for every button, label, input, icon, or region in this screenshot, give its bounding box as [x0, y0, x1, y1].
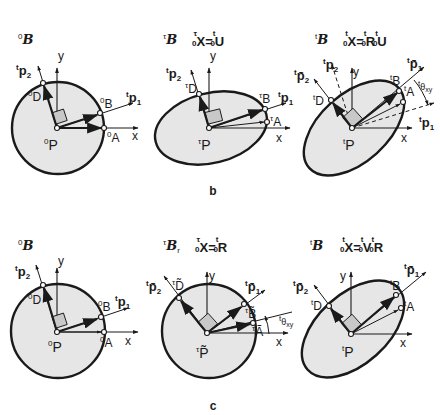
point-A: [265, 120, 270, 125]
point-P: [350, 126, 355, 131]
config-symbol: 0B: [18, 32, 33, 47]
panel-b1: 0B y x 0P 0A 0B 0D tp1 tp2: [12, 32, 142, 174]
point-D: [41, 283, 46, 288]
label-D: tD: [311, 298, 322, 313]
label-p1bar: tp̄1: [404, 262, 420, 279]
x-label: x: [400, 336, 406, 350]
point-A: [102, 330, 107, 335]
polar-decomposition-figure: 0B y x 0P 0A 0B 0D tp1 tp2 τB τ0X=t0U: [0, 0, 440, 415]
label-D: tD: [313, 93, 324, 108]
point-P: [207, 126, 212, 131]
label-A: tA: [404, 299, 414, 314]
x-label: x: [125, 334, 131, 348]
label-B: 0B: [100, 96, 112, 111]
point-B: [98, 111, 103, 116]
point-D: [41, 81, 46, 86]
y-label: y: [58, 49, 64, 63]
label-D: τD̃: [172, 278, 184, 293]
point-P: [349, 332, 354, 337]
label-theta-xy: tθxy: [418, 79, 433, 94]
subfigure-label-b: b: [209, 184, 216, 198]
y-label: y: [340, 269, 346, 283]
x-label: x: [401, 131, 407, 145]
panel-b3: tB t0X=t0Rt0U y x tP tA tB tD tθxy tp1 t…: [287, 29, 435, 193]
label-p1: tp1: [419, 115, 435, 132]
config-symbol: τB: [163, 32, 177, 47]
label-D: τD: [185, 81, 197, 96]
label-P: tP: [342, 344, 354, 360]
formula: t0X=t0Rt0U: [343, 29, 387, 49]
formula: τ0X=t0U: [192, 29, 224, 49]
y-label: y: [353, 65, 359, 79]
label-p2: tp2: [15, 264, 31, 281]
point-B: [263, 107, 268, 112]
y-label: y: [58, 254, 64, 268]
point-A: [399, 306, 404, 311]
config-symbol: 0B: [18, 238, 33, 253]
label-p1: tp1: [278, 90, 294, 107]
config-symbol: τBr: [163, 238, 180, 255]
angle-arc: [265, 316, 269, 334]
panel-b2: τB τ0X=t0U y x τP τA τB τD tp1 tp2: [147, 29, 293, 176]
label-theta-xy: tθxy: [279, 314, 294, 329]
x-label: x: [276, 335, 282, 349]
label-A: 0A: [107, 130, 119, 145]
point-D: [327, 304, 332, 309]
formula: τ0X=t0R: [195, 235, 228, 255]
y-label: y: [210, 49, 216, 63]
panel-c1: 0B y x 0P 0A 0B 0D tp1 tp2: [11, 238, 138, 378]
label-p2: tp2: [166, 66, 182, 83]
point-B: [394, 293, 399, 298]
label-p1bar: tp̄1: [407, 56, 423, 73]
point-P: [55, 330, 60, 335]
point-A: [401, 100, 406, 105]
label-p2bar: tp̄2: [293, 279, 309, 296]
point-P: [55, 126, 60, 131]
point-B: [397, 89, 402, 94]
point-A: [102, 126, 107, 131]
label-B: tB: [390, 278, 400, 293]
point-P: [205, 331, 210, 336]
point-D: [197, 92, 202, 97]
config-symbol: tB: [315, 32, 328, 47]
y-label: y: [209, 269, 215, 283]
panel-c2: τBr τ0X=t0R y x τP̃ τÃ τB̃ τD̃ tθxy tp̄1…: [146, 235, 294, 378]
formula: t0X=t0Vt0R: [340, 235, 384, 255]
point-B: [99, 315, 104, 320]
label-P: tP: [343, 137, 355, 153]
label-p2bar: tp̄2: [146, 279, 162, 296]
point-D: [329, 98, 334, 103]
label-p2: tp2: [323, 57, 339, 74]
x-label: x: [276, 131, 282, 145]
label-p2: tp2: [16, 63, 32, 80]
config-symbol: tB: [310, 238, 323, 253]
x-label: x: [132, 129, 138, 143]
subfigure-label-c: c: [210, 399, 217, 413]
label-A: tA: [404, 84, 414, 99]
point-D: [177, 296, 182, 301]
label-p1bar: tp̄1: [245, 279, 261, 296]
label-p1: tp1: [115, 294, 131, 311]
label-B: tB: [390, 73, 400, 88]
panel-c3: tB t0X=t0Vt0R y x tP tA tB tD tp̄1 tp̄2: [284, 235, 426, 396]
label-p2bar: tp̄2: [294, 68, 310, 85]
label-p1: tp1: [126, 90, 142, 107]
label-A: τA: [270, 114, 281, 129]
